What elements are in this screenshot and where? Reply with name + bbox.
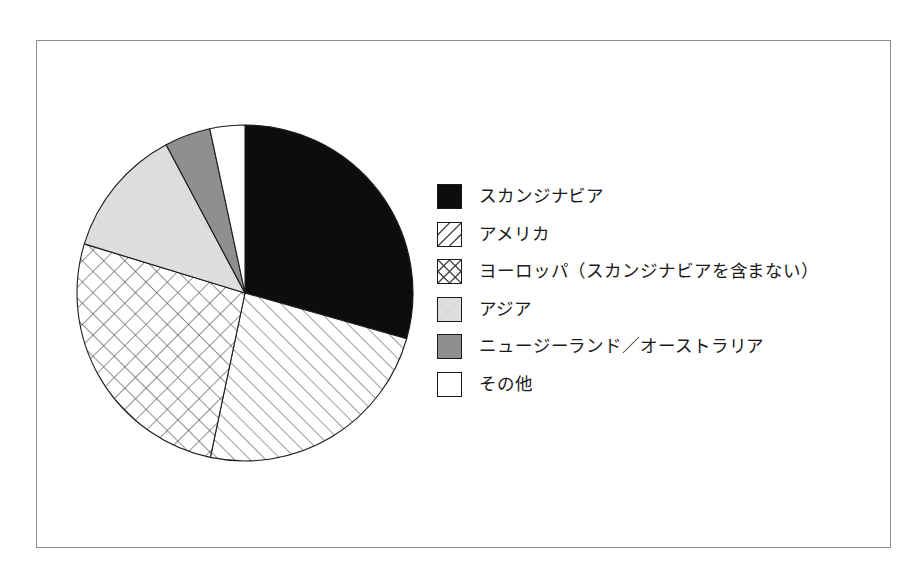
legend-item-asia: アジア: [437, 291, 867, 329]
legend-label-europe: ヨーロッパ（スカンジナビアを含まない）: [479, 263, 819, 281]
medium-gray-swatch: [437, 334, 462, 359]
light-gray-swatch: [437, 297, 462, 322]
legend-label-scandinavia: スカンジナビア: [479, 188, 604, 206]
legend-item-europe: ヨーロッパ（スカンジナビアを含まない）: [437, 253, 867, 291]
legend-item-scandinavia: スカンジナビア: [437, 178, 867, 216]
legend-label-america: アメリカ: [479, 226, 550, 244]
pie-chart-svg: [40, 48, 460, 468]
white-swatch: [437, 372, 462, 397]
cross-hatch-swatch: [437, 259, 462, 284]
chart-legend: スカンジナビア アメリカ: [437, 178, 867, 403]
pie-slice-group: [77, 125, 413, 461]
solid-black-swatch: [437, 184, 462, 209]
diagonal-hatch-swatch: [437, 222, 462, 247]
legend-item-nz-australia: ニュージーランド／オーストラリア: [437, 328, 867, 366]
pie-chart: [40, 48, 460, 468]
figure-root: スカンジナビア アメリカ: [0, 0, 903, 567]
legend-label-asia: アジア: [479, 301, 532, 319]
legend-label-other: その他: [479, 376, 533, 394]
legend-item-america: アメリカ: [437, 216, 867, 254]
legend-item-other: その他: [437, 366, 867, 404]
legend-label-nz-australia: ニュージーランド／オーストラリア: [479, 338, 764, 356]
